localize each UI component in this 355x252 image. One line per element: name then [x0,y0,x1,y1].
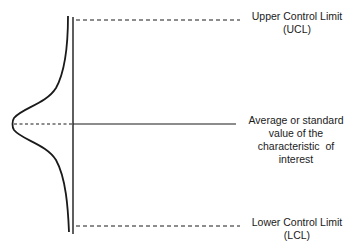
lcl-label-line2: (LCL) [244,229,350,242]
center-label-line3: characteristic of [240,140,352,153]
lcl-label-line1: Lower Control Limit [244,216,350,229]
ucl-label-line1: Upper Control Limit [244,10,350,23]
center-label: Average or standard value of the charact… [240,114,352,166]
control-chart-diagram: Upper Control Limit (UCL) Average or sta… [0,0,355,252]
center-label-line2: value of the [240,127,352,140]
center-label-line4: interest [240,153,352,166]
center-label-line1: Average or standard [240,114,352,127]
ucl-label: Upper Control Limit (UCL) [244,10,350,36]
lcl-label: Lower Control Limit (LCL) [244,216,350,242]
ucl-label-line2: (UCL) [244,23,350,36]
